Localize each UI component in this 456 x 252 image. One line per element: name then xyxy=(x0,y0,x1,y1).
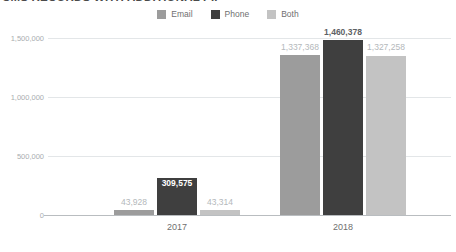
bar-chart-plot: 1,500,000 1,000,000 500,000 0 43,928 309… xyxy=(0,0,456,252)
bar-label-2018-phone: 1,460,378 xyxy=(314,27,372,37)
y-tick-500000: 500,000 xyxy=(0,152,44,161)
bar-group-2017: 43,928 309,575 43,314 xyxy=(113,0,241,215)
bar-2017-email[interactable] xyxy=(114,210,154,215)
y-tick-1500000: 1,500,000 xyxy=(0,34,44,43)
bar-2018-both[interactable] xyxy=(366,56,406,215)
x-tick-2017: 2017 xyxy=(113,222,241,232)
bar-label-2018-email: 1,337,368 xyxy=(271,42,329,52)
bar-2018-email[interactable] xyxy=(280,55,320,215)
y-tick-1000000: 1,000,000 xyxy=(0,93,44,102)
bar-2018-phone[interactable] xyxy=(323,40,363,215)
y-tick-0: 0 xyxy=(0,211,44,220)
bar-label-2017-both: 43,314 xyxy=(193,197,247,207)
bar-label-2017-email: 43,928 xyxy=(107,197,161,207)
bar-2017-both[interactable] xyxy=(200,210,240,215)
bar-label-2017-phone: 309,575 xyxy=(150,178,204,188)
bar-group-2018: 1,337,368 1,460,378 1,327,258 xyxy=(279,0,407,215)
x-axis-line xyxy=(44,215,451,216)
bar-label-2018-both: 1,327,258 xyxy=(357,42,415,52)
x-tick-2018: 2018 xyxy=(279,222,407,232)
